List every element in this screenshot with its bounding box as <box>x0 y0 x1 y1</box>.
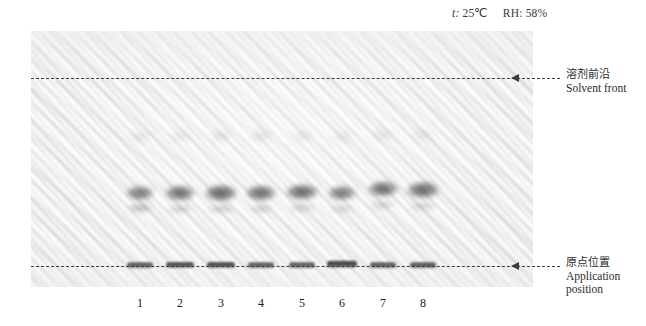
origin-residue-band <box>166 262 194 268</box>
plate-texture-mid <box>31 31 533 287</box>
reference-line-application-position <box>31 266 560 267</box>
solvent-front-label-en: Solvent front <box>566 82 626 96</box>
lane-number-4: 4 <box>258 296 264 311</box>
humidity-value: 58% <box>526 7 548 19</box>
tlc-spot <box>410 203 436 210</box>
application-position-annotation: 原点位置 Application position <box>566 256 620 297</box>
tlc-spot <box>170 133 190 142</box>
reference-arrow-solvent-front <box>511 74 519 82</box>
lane-number-5: 5 <box>299 296 305 311</box>
lane-number-1: 1 <box>137 296 143 311</box>
origin-residue-band <box>207 262 235 268</box>
tlc-spot <box>128 204 152 212</box>
plate-texture-fine <box>31 31 533 287</box>
tlc-spot <box>286 184 318 200</box>
tlc-spot <box>292 132 312 141</box>
tlc-spot <box>413 131 433 140</box>
application-position-label-cn: 原点位置 <box>566 256 620 270</box>
tlc-spot <box>249 206 273 213</box>
tlc-spot <box>130 133 150 142</box>
tlc-spot <box>251 132 271 141</box>
tlc-spot <box>246 185 276 201</box>
conditions-text: t: 25℃ RH: 58% <box>452 6 547 20</box>
humidity-label: RH: <box>503 7 523 19</box>
reference-arrow-application-position <box>511 262 519 270</box>
tlc-plate <box>31 31 533 287</box>
tlc-spot <box>373 131 393 140</box>
solvent-front-label-cn: 溶剂前沿 <box>566 68 626 82</box>
tlc-spot <box>211 132 231 141</box>
tlc-spot <box>368 181 398 197</box>
temperature-value: 25℃ <box>463 7 488 19</box>
plate-texture-broad <box>31 31 533 287</box>
temperature-label: t: <box>452 7 459 19</box>
tlc-spot <box>332 133 352 142</box>
plate-vignette <box>31 31 533 287</box>
reference-line-solvent-front <box>31 78 560 79</box>
solvent-front-annotation: 溶剂前沿 Solvent front <box>566 68 626 95</box>
application-position-label-en-line2: position <box>566 283 620 297</box>
application-position-label-en-line1: Application <box>566 270 620 284</box>
tlc-spot <box>165 185 195 201</box>
tlc-spot <box>407 182 439 199</box>
tlc-figure: t: 25℃ RH: 58% 溶剂前沿 Solvent front 原点位置 A… <box>0 0 646 326</box>
tlc-spot <box>126 186 154 201</box>
tlc-spot <box>208 206 234 213</box>
tlc-spot <box>289 205 315 212</box>
tlc-spot <box>371 202 395 209</box>
tlc-spot <box>168 206 192 213</box>
tlc-spot <box>328 186 356 201</box>
lane-number-8: 8 <box>420 296 426 311</box>
tlc-spot <box>205 185 237 202</box>
lane-number-6: 6 <box>339 296 345 311</box>
lane-number-2: 2 <box>177 296 183 311</box>
lane-number-3: 3 <box>218 296 224 311</box>
lane-number-7: 7 <box>380 296 386 311</box>
tlc-spot <box>330 206 354 213</box>
